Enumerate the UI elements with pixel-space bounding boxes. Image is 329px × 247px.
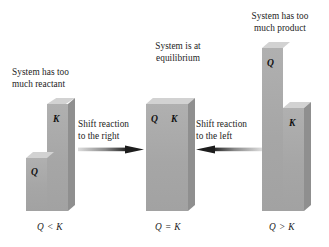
arrow-shift-right-icon [78,145,146,154]
bar-right-Q-label: Q [267,57,274,68]
bar-middle-K-label: K [171,113,177,124]
bar-middle-Q-label: Q [151,113,158,124]
bar-right-Q: Q [262,48,283,211]
arrow-group-shift-left: Shift reaction to the left [196,118,266,154]
bar-middle-side-face [188,98,195,211]
bar-middle-top-face [146,98,195,104]
bar-right-Q-front-face [262,48,283,211]
bar-left-Q-label: Q [31,166,38,177]
relation-left-panel: Q < K [18,222,82,232]
bar-right-Q-top-face [262,42,290,48]
bar-left-K-label: K [53,113,59,124]
caption-left-panel: System has too much reactant [12,66,118,91]
relation-right-panel: Q > K [250,222,314,232]
bar-right-K-label: K [289,117,295,128]
arrow-group-shift-right: Shift reaction to the right [78,118,146,154]
arrow-label-shift-right: Shift reaction to the right [78,118,146,143]
caption-right-panel: System has too much product [232,10,328,35]
arrow-label-shift-left: Shift reaction to the left [196,118,266,143]
bar-middle-QK: Q K [146,104,188,211]
equilibrium-diagram: System has too much reactant System is a… [0,0,329,247]
bar-left-Q: Q [26,158,47,211]
arrow-shift-left-icon [196,145,266,154]
bar-right-K: K [283,108,304,211]
bar-right-K-side-face [304,102,311,211]
bar-left-K: K [47,104,68,211]
caption-middle-panel: System is at equilibrium [130,40,226,65]
relation-middle-panel: Q = K [136,222,200,232]
bar-left-K-side-face [68,98,75,211]
